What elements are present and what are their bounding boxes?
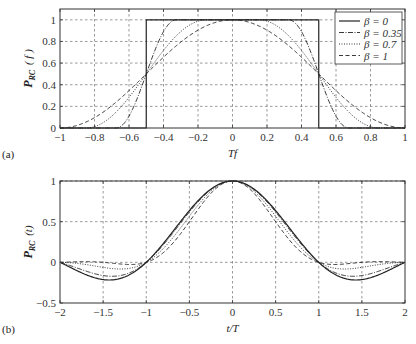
y-tick-label: 1: [51, 175, 57, 187]
x-tick-label: −0.6: [119, 131, 139, 143]
y-tick-label: 0.4: [42, 79, 56, 91]
x-tick-label: 1.5: [355, 306, 369, 318]
y-tick-label: 0: [51, 122, 57, 134]
x-tick-label: −0.5: [179, 306, 199, 318]
y-tick-label: −0.5: [36, 297, 56, 309]
x-tick-label: 1: [316, 306, 322, 318]
panel-label: (a): [2, 148, 15, 161]
x-tick-label: 0: [230, 306, 236, 318]
x-tick-label: −0.2: [188, 131, 208, 143]
chart-panel-b-pulse: −2−1.5−1−0.500.511.52−0.500.51t/TPRC (t)…: [2, 175, 408, 336]
x-tick-label: 0.2: [260, 131, 274, 143]
legend-entry: β = 0.35: [363, 27, 402, 39]
x-tick-label: 0.4: [295, 131, 309, 143]
x-tick-label: −1: [140, 306, 152, 318]
y-tick-label: 0: [51, 256, 57, 268]
legend-entry: β = 0.7: [363, 38, 397, 50]
x-axis-label: t/T: [226, 322, 239, 334]
legend-entry: β = 1: [363, 50, 388, 62]
data-series: [60, 181, 405, 280]
axes: −2−1.5−1−0.500.511.52−0.500.51: [36, 175, 408, 318]
x-tick-label: 0.6: [329, 131, 343, 143]
y-tick-label: 1: [51, 14, 57, 26]
x-tick-label: 0.5: [269, 306, 283, 318]
x-tick-label: −0.4: [154, 131, 174, 143]
legend: β = 0β = 0.35β = 0.7β = 1: [335, 12, 402, 64]
x-tick-label: −0.8: [85, 131, 105, 143]
chart-panel-a-spectrum: −1−0.8−0.6−0.4−0.200.20.40.60.8100.20.40…: [2, 9, 408, 161]
x-tick-label: 1: [402, 131, 408, 143]
y-axis-label: PRC ( f ): [21, 49, 37, 88]
x-axis-label: Tf: [228, 147, 239, 159]
x-tick-label: −1.5: [93, 306, 113, 318]
x-tick-label: 2: [402, 306, 408, 318]
grid-lines: [60, 181, 405, 303]
series-line-beta-0-7: [60, 181, 405, 269]
x-tick-label: 0: [230, 131, 236, 143]
y-axis-label: PRC (t): [21, 225, 37, 258]
y-tick-label: 0.5: [42, 216, 56, 228]
raised-cosine-figure: −1−0.8−0.6−0.4−0.200.20.40.60.8100.20.40…: [0, 0, 416, 344]
x-tick-label: 0.8: [364, 131, 378, 143]
series-line-beta-0: [60, 181, 405, 280]
y-tick-label: 0.6: [42, 57, 56, 69]
panel-label: (b): [2, 323, 15, 336]
legend-entry: β = 0: [363, 15, 388, 27]
y-tick-label: 0.2: [42, 100, 56, 112]
y-tick-label: 0.8: [42, 35, 56, 47]
